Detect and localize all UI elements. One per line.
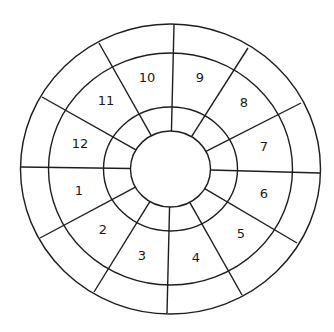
segment-label-12: 12 (72, 136, 89, 151)
segmented-ring-diagram: 123456789101112 (0, 0, 334, 332)
segment-divider (99, 43, 151, 136)
second-ring (49, 53, 293, 285)
segment-label-10: 10 (139, 70, 156, 85)
segment-divider (205, 189, 297, 243)
segment-divider (40, 187, 135, 238)
segment-label-3: 3 (138, 248, 146, 263)
segment-label-4: 4 (192, 250, 200, 265)
segment-label-9: 9 (196, 70, 204, 85)
segment-divider (21, 167, 131, 168)
inner-circle (131, 131, 211, 207)
segment-divider (210, 170, 320, 173)
segment-divider (42, 97, 136, 150)
segment-label-7: 7 (260, 139, 268, 154)
segment-divider (171, 25, 174, 131)
segment-divider (167, 207, 170, 313)
segment-label-2: 2 (99, 222, 107, 237)
segment-label-6: 6 (260, 186, 268, 201)
outer-ring (21, 24, 321, 314)
segment-divider (192, 48, 248, 137)
segment-label-8: 8 (240, 95, 248, 110)
segment-label-5: 5 (237, 226, 245, 241)
segment-label-11: 11 (98, 93, 115, 108)
segment-label-1: 1 (75, 183, 83, 198)
